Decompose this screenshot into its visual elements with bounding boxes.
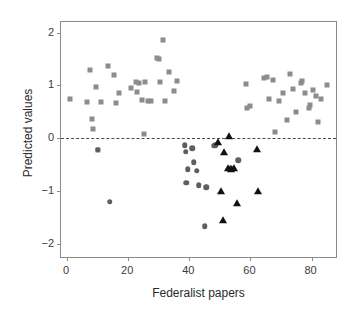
data-point-circle xyxy=(235,158,241,164)
y-axis-label: Predicted values xyxy=(21,53,35,213)
data-point-square xyxy=(308,102,313,107)
data-point-triangle xyxy=(214,139,222,146)
x-axis-tick-label: 40 xyxy=(182,264,194,276)
data-point-circle xyxy=(191,160,197,166)
data-point-circle xyxy=(183,149,189,155)
y-axis-tick xyxy=(57,191,61,192)
data-point-square xyxy=(129,86,134,91)
data-point-circle xyxy=(107,199,113,205)
data-point-square xyxy=(84,100,89,105)
data-point-square xyxy=(114,101,119,106)
data-point-square xyxy=(88,67,93,72)
data-point-circle xyxy=(194,168,200,174)
data-point-circle xyxy=(95,147,101,153)
data-point-circle xyxy=(184,180,190,186)
data-point-square xyxy=(135,90,140,95)
x-axis-tick xyxy=(250,257,251,261)
y-axis-tick-label: −2 xyxy=(41,237,54,249)
data-point-square xyxy=(141,131,146,136)
y-axis-tick-label: 0 xyxy=(48,131,54,143)
zero-reference-line xyxy=(61,138,336,139)
x-axis-tick xyxy=(67,257,68,261)
data-point-square xyxy=(311,87,316,92)
data-point-triangle xyxy=(230,164,238,171)
scatter-plot-figure: Predicted values 210−1−2 020406080 Feder… xyxy=(0,0,354,314)
y-axis-tick xyxy=(57,85,61,86)
data-point-square xyxy=(94,84,99,89)
x-axis-tick-label: 0 xyxy=(63,264,69,276)
data-point-square xyxy=(288,71,293,76)
y-axis-tick-label: 1 xyxy=(48,78,54,90)
y-axis-tick xyxy=(57,138,61,139)
x-axis-tick-labels: 020406080 xyxy=(60,264,337,280)
x-axis-tick xyxy=(312,257,313,261)
data-point-square xyxy=(315,119,320,124)
plot-frame xyxy=(60,21,337,258)
data-point-square xyxy=(248,103,253,108)
data-point-square xyxy=(280,91,285,96)
data-point-square xyxy=(156,56,161,61)
data-point-circle xyxy=(185,167,191,173)
data-point-square xyxy=(149,99,154,104)
data-point-square xyxy=(143,79,148,84)
y-axis-tick-label: 2 xyxy=(48,26,54,38)
data-point-square xyxy=(243,82,248,87)
data-point-square xyxy=(91,126,96,131)
data-point-square xyxy=(106,64,111,69)
data-point-square xyxy=(277,98,282,103)
data-point-triangle xyxy=(233,199,241,206)
data-point-square xyxy=(175,79,180,84)
data-point-square xyxy=(162,98,167,103)
y-axis-tick xyxy=(57,244,61,245)
data-point-circle xyxy=(190,145,196,151)
x-axis-label: Federalist papers xyxy=(60,286,337,300)
x-axis-tick xyxy=(189,257,190,261)
data-point-square xyxy=(139,98,144,103)
data-point-square xyxy=(318,97,323,102)
data-point-triangle xyxy=(219,216,227,223)
data-point-circle xyxy=(203,185,209,191)
data-point-square xyxy=(324,82,329,87)
data-point-square xyxy=(167,70,172,75)
data-point-square xyxy=(161,38,166,43)
data-point-square xyxy=(158,80,163,85)
data-point-triangle xyxy=(253,145,261,152)
data-point-square xyxy=(68,97,73,102)
x-axis-tick-label: 80 xyxy=(304,264,316,276)
y-axis-tick-label: −1 xyxy=(41,184,54,196)
x-axis-tick-label: 20 xyxy=(121,264,133,276)
data-point-square xyxy=(266,96,271,101)
data-point-square xyxy=(112,73,117,78)
y-axis-tick xyxy=(57,33,61,34)
data-point-square xyxy=(303,91,308,96)
data-point-square xyxy=(271,77,276,82)
data-point-square xyxy=(98,100,103,105)
data-point-circle xyxy=(196,182,202,188)
data-point-circle xyxy=(182,142,188,148)
data-point-square xyxy=(272,129,277,134)
data-point-square xyxy=(136,81,141,86)
data-point-circle xyxy=(202,224,208,230)
data-point-triangle xyxy=(254,187,262,194)
data-point-triangle xyxy=(217,187,225,194)
data-point-square xyxy=(89,116,94,121)
data-point-triangle xyxy=(225,132,233,139)
x-axis-tick xyxy=(128,257,129,261)
data-point-square xyxy=(300,78,305,83)
data-point-square xyxy=(285,117,290,122)
data-point-square xyxy=(265,74,270,79)
data-point-square xyxy=(294,109,299,114)
plot-area xyxy=(61,22,336,257)
x-axis-tick-label: 60 xyxy=(243,264,255,276)
data-point-square xyxy=(172,88,177,93)
data-point-square xyxy=(291,86,296,91)
y-axis-tick-labels: 210−1−2 xyxy=(36,21,54,258)
data-point-square xyxy=(117,90,122,95)
data-point-triangle xyxy=(220,148,228,155)
